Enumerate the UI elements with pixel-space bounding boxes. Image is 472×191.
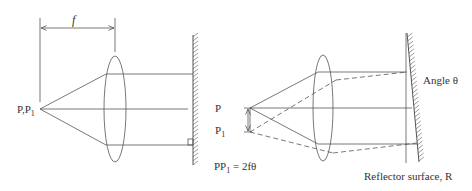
label-p1: P1: [215, 124, 225, 139]
optical-diagram: f P,P1 P P1 PP1 = 2fθ Angle θ Reflector …: [0, 0, 472, 191]
ray-upper: [250, 72, 318, 108]
displacement-equation: PP1 = 2fθ: [214, 160, 256, 175]
label-p: P: [215, 102, 221, 114]
right-angle-marker: [188, 139, 193, 145]
reflector-label: Reflector surface, R: [364, 170, 453, 182]
angle-label: Angle θ: [423, 74, 458, 86]
left-diagram: [40, 18, 198, 165]
ray-lower: [40, 109, 106, 145]
mirror-hatching: [193, 33, 198, 165]
focal-length-label: f: [72, 13, 77, 27]
point-label-left: P,P1: [17, 103, 35, 118]
right-diagram: [244, 33, 424, 163]
ray-upper: [40, 74, 106, 109]
reflector-hatching: [407, 33, 424, 161]
reflected-rays: [250, 72, 417, 153]
